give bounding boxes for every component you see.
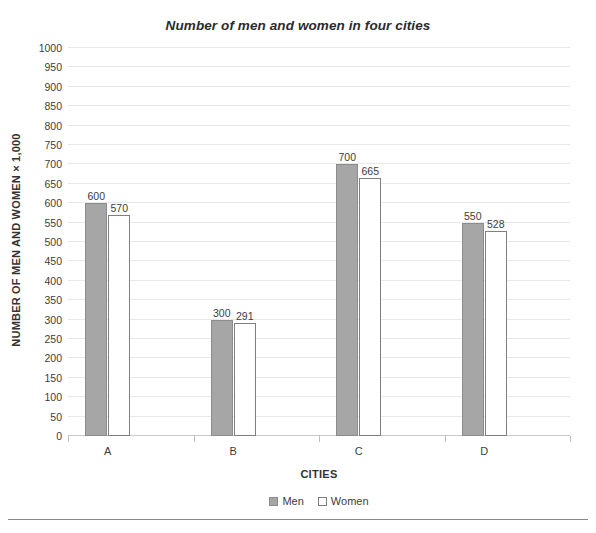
y-axis-tick-label: 750 [44, 139, 62, 151]
x-axis-category-label-c: C [355, 445, 363, 457]
x-axis-category-label-d: D [480, 445, 488, 457]
y-axis-tick-label: 350 [44, 294, 62, 306]
bar-men-b[interactable]: 300 [211, 320, 233, 436]
bar-men-c[interactable]: 700 [336, 164, 358, 436]
bar-value-label: 665 [361, 165, 379, 177]
bar-women-c[interactable]: 665 [359, 178, 381, 436]
y-axis-tick-label: 700 [44, 158, 62, 170]
bar-men-d[interactable]: 550 [462, 223, 484, 436]
bar-women-d[interactable]: 528 [485, 231, 507, 436]
bar-value-label: 570 [110, 202, 128, 214]
y-axis-tick-label: 100 [44, 391, 62, 403]
legend-swatch-women-icon [318, 497, 327, 506]
gridline [68, 125, 570, 126]
gridline [68, 202, 570, 203]
y-axis-tick-label: 900 [44, 81, 62, 93]
gridline [68, 163, 570, 164]
bar-women-a[interactable]: 570 [108, 215, 130, 436]
bottom-divider [8, 519, 588, 520]
bar-value-label: 300 [213, 307, 231, 319]
y-axis-tick-label: 650 [44, 178, 62, 190]
x-axis-tick [445, 436, 446, 442]
plot-area: 0501001502002503003504004505005506006507… [68, 48, 570, 436]
x-axis-tick [68, 436, 69, 442]
bar-value-label: 600 [87, 190, 105, 202]
x-axis-tick [570, 436, 571, 442]
y-axis-tick-label: 300 [44, 314, 62, 326]
y-axis-tick-label: 800 [44, 120, 62, 132]
bar-value-label: 550 [464, 210, 482, 222]
y-axis-tick-label: 1000 [39, 42, 62, 54]
legend-swatch-men-icon [269, 497, 278, 506]
chart-legend: Men Women [68, 495, 570, 507]
y-axis-tick-label: 500 [44, 236, 62, 248]
y-axis-tick-label: 250 [44, 333, 62, 345]
x-axis-tick [194, 436, 195, 442]
bar-value-label: 528 [487, 218, 505, 230]
y-axis-tick-label: 50 [50, 411, 62, 423]
bar-men-a[interactable]: 600 [85, 203, 107, 436]
bar-women-b[interactable]: 291 [234, 323, 256, 436]
legend-label-women: Women [331, 495, 369, 507]
x-axis-category-label-a: A [104, 445, 111, 457]
gridline [68, 66, 570, 67]
y-axis-title-text: NUMBER OF MEN AND WOMEN × 1,000 [10, 133, 22, 346]
chart-title: Number of men and women in four cities [0, 18, 596, 33]
gridline [68, 105, 570, 106]
bar-value-label: 700 [338, 151, 356, 163]
legend-item-women[interactable]: Women [318, 495, 369, 507]
gridline [68, 144, 570, 145]
x-axis-category-label-b: B [230, 445, 237, 457]
gridline [68, 47, 570, 48]
x-axis-tick [319, 436, 320, 442]
y-axis-tick-label: 450 [44, 255, 62, 267]
y-axis-tick-label: 0 [56, 430, 62, 442]
y-axis-tick-label: 150 [44, 372, 62, 384]
y-axis-tick-label: 600 [44, 197, 62, 209]
gridline [68, 183, 570, 184]
y-axis-tick-label: 850 [44, 100, 62, 112]
legend-label-men: Men [282, 495, 303, 507]
x-axis-title: CITIES [68, 468, 570, 480]
y-axis-tick-label: 400 [44, 275, 62, 287]
y-axis-tick-label: 200 [44, 352, 62, 364]
gridline [68, 86, 570, 87]
y-axis-title: NUMBER OF MEN AND WOMEN × 1,000 [6, 44, 26, 436]
y-axis-tick-label: 550 [44, 217, 62, 229]
legend-item-men[interactable]: Men [269, 495, 303, 507]
bar-value-label: 291 [236, 310, 254, 322]
y-axis-tick-label: 950 [44, 61, 62, 73]
